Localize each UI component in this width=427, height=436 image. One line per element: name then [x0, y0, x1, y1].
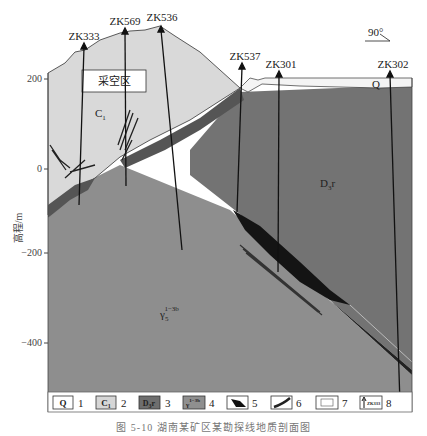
borehole-label-zk537: ZK537	[229, 50, 261, 62]
y-tick-neg200: −200	[21, 247, 42, 258]
borehole-label-zk302: ZK302	[377, 58, 408, 70]
y-axis-label: 高程/m	[12, 213, 24, 244]
legend-num-5: 5	[252, 397, 258, 409]
borehole-label-zk536: ZK536	[146, 11, 178, 23]
borehole-label-zk333: ZK333	[68, 30, 100, 42]
q-label: Q	[372, 78, 380, 90]
orientation-label: 90°	[368, 26, 383, 38]
borehole-label-zk569: ZK569	[109, 15, 141, 27]
y-tick-0: 0	[37, 163, 42, 174]
legend-num-7: 7	[342, 397, 348, 409]
y-tick-neg400: −400	[21, 337, 42, 348]
legend-borehole-symbol: ZK333	[367, 401, 381, 406]
y-tick-200: 200	[27, 73, 42, 84]
svg-text:Q: Q	[59, 398, 66, 408]
legend-num-6: 6	[296, 397, 302, 409]
legend-num-2: 2	[121, 397, 127, 409]
legend-num-3: 3	[165, 397, 171, 409]
geologic-cross-section-figure: 采空区 C1 D3r Q γ51−3b ZK333 ZK569 ZK536 ZK…	[0, 0, 427, 436]
legend-num-1: 1	[78, 397, 84, 409]
y-axis: 200 0 −200 −400 高程/m	[12, 73, 48, 348]
legend-num-8: 8	[386, 397, 392, 409]
figure-caption: 图 5-10 湖南某矿区某勘探线地质剖面图	[0, 419, 427, 434]
legend-num-4: 4	[209, 397, 215, 409]
borehole-label-zk301: ZK301	[265, 58, 296, 70]
